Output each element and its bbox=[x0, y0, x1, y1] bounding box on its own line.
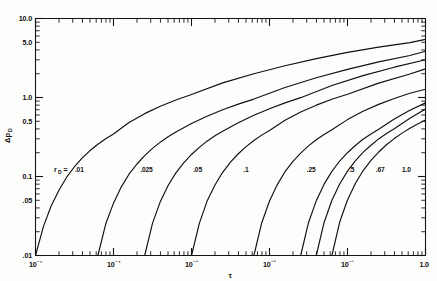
curve-p01 bbox=[36, 39, 426, 255]
x-tick-label-text: 10 bbox=[29, 260, 37, 269]
x-tick-label-text: 10 bbox=[263, 260, 271, 269]
x-tick-label-text: 1.0 bbox=[420, 260, 430, 269]
y-axis-title-subscript: D bbox=[7, 128, 13, 132]
x-tick-label: 10⁻¹ bbox=[341, 259, 354, 270]
chart-text-labels: 10⁻⁵10⁻⁴10⁻³10⁻²10⁻¹1.010.05.01.00.50.1.… bbox=[3, 14, 429, 279]
curve-p25 bbox=[254, 89, 426, 255]
curve-label-p67: .67 bbox=[376, 166, 385, 173]
y-tick-label-text: 0.1 bbox=[23, 172, 33, 181]
series-parameter-subscript: D bbox=[58, 169, 62, 175]
chart-figure: 10⁻⁵10⁻⁴10⁻³10⁻²10⁻¹1.010.05.01.00.50.1.… bbox=[0, 0, 437, 281]
x-axis-title: τ bbox=[229, 271, 233, 280]
y-tick-label-text: .05 bbox=[23, 196, 33, 205]
curve-p5 bbox=[301, 103, 426, 256]
x-tick-label-exponent: ⁻¹ bbox=[349, 259, 354, 265]
x-tick-label-text: 10 bbox=[341, 260, 349, 269]
series-parameter-equals: = bbox=[63, 166, 67, 173]
curve-label-p25: .25 bbox=[307, 166, 316, 173]
curve-p1 bbox=[192, 69, 426, 256]
curve-label-p025: .025 bbox=[140, 166, 153, 173]
curve-lines bbox=[36, 39, 426, 255]
x-tick-label: 10⁻⁴ bbox=[107, 259, 121, 270]
y-tick-label-text: 10.0 bbox=[19, 14, 32, 23]
curve-p67 bbox=[316, 109, 425, 255]
x-tick-label-exponent: ⁻⁵ bbox=[37, 259, 43, 265]
y-tick-label-text: .01 bbox=[23, 251, 33, 260]
y-axis-title-main: Δp bbox=[3, 133, 12, 143]
series-parameter-symbol: r bbox=[54, 166, 57, 173]
curve-label-p05: .05 bbox=[193, 166, 202, 173]
curve-label-1p0: 1.0 bbox=[402, 166, 411, 173]
x-tick-label: 10⁻² bbox=[263, 259, 276, 270]
x-tick-label-exponent: ⁻⁴ bbox=[115, 259, 121, 265]
curve-label-p01: .01 bbox=[75, 166, 84, 173]
x-tick-label-text: 10 bbox=[107, 260, 115, 269]
curve-1p0 bbox=[332, 120, 426, 256]
chart-plot-area: 10⁻⁵10⁻⁴10⁻³10⁻²10⁻¹1.010.05.01.00.50.1.… bbox=[0, 0, 437, 281]
y-tick-label-text: 5.0 bbox=[23, 38, 33, 47]
x-tick-label-text: 10 bbox=[185, 260, 193, 269]
x-tick-label: 1.0 bbox=[420, 260, 430, 269]
x-tick-label-exponent: ⁻³ bbox=[193, 259, 198, 265]
y-tick-label-text: 1.0 bbox=[23, 93, 33, 102]
curve-label-p5: .5 bbox=[349, 166, 355, 173]
y-tick-label-text: 0.5 bbox=[23, 117, 33, 126]
x-tick-label-exponent: ⁻² bbox=[271, 259, 276, 265]
y-axis-title: ΔpD bbox=[3, 128, 13, 143]
x-tick-label: 10⁻³ bbox=[185, 259, 198, 270]
series-parameter-key: rD= bbox=[54, 166, 68, 175]
curve-p05 bbox=[145, 60, 426, 256]
curve-label-p1: .1 bbox=[243, 166, 249, 173]
